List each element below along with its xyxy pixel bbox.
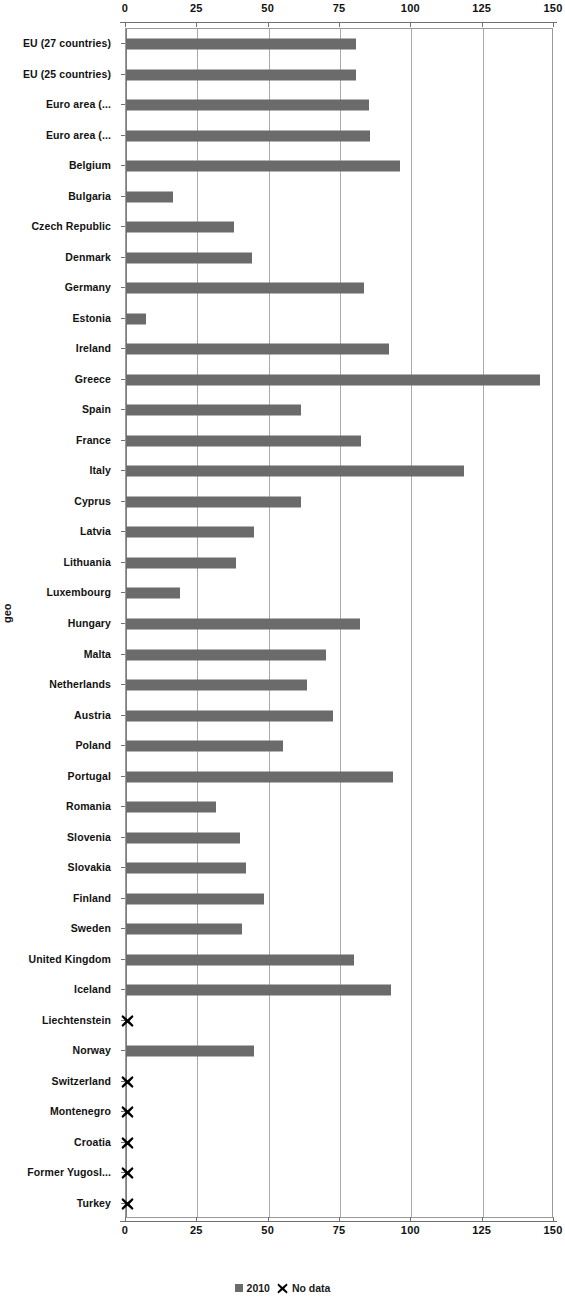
bar[interactable] [126, 710, 333, 721]
bar[interactable] [126, 649, 326, 660]
x-tick-mark [553, 1217, 554, 1221]
bar-row[interactable] [126, 29, 552, 60]
bar[interactable] [126, 191, 173, 202]
bar-row[interactable] [126, 365, 552, 396]
x-tick-mark [268, 23, 269, 27]
x-tick-label: 50 [261, 2, 274, 14]
bar-row[interactable] [126, 944, 552, 975]
bar[interactable] [126, 1046, 254, 1057]
bar[interactable] [126, 863, 246, 874]
bar-row[interactable] [126, 914, 552, 945]
bar-row[interactable] [126, 90, 552, 121]
bar[interactable] [126, 313, 146, 324]
bar[interactable] [126, 893, 264, 904]
bar-row[interactable] [126, 609, 552, 640]
bar[interactable] [126, 741, 283, 752]
bar[interactable] [126, 496, 301, 507]
bar-row[interactable] [126, 822, 552, 853]
bar-row[interactable] [126, 700, 552, 731]
y-category-label: Finland [73, 892, 111, 904]
bar-row[interactable] [126, 731, 552, 762]
bar[interactable] [126, 527, 254, 538]
y-category-label: Euro area (... [46, 98, 111, 110]
bar[interactable] [126, 588, 180, 599]
bar-row[interactable] [126, 1005, 552, 1036]
y-category-label: Romania [66, 800, 111, 812]
x-tick-label: 75 [333, 2, 346, 14]
bar-row[interactable] [126, 883, 552, 914]
bar[interactable] [126, 466, 464, 477]
bar-row[interactable] [126, 1127, 552, 1158]
bar[interactable] [126, 985, 391, 996]
bar[interactable] [126, 283, 364, 294]
bar-row[interactable] [126, 456, 552, 487]
bar-row[interactable] [126, 975, 552, 1006]
chart-legend: 2010 No data [0, 1282, 565, 1294]
x-tick-label: 100 [401, 1224, 420, 1236]
bar-row[interactable] [126, 670, 552, 701]
bar-row[interactable] [126, 60, 552, 91]
y-category-label: Norway [72, 1044, 111, 1056]
legend-swatch-icon [235, 1284, 243, 1292]
bar[interactable] [126, 924, 242, 935]
bar-row[interactable] [126, 1066, 552, 1097]
bar[interactable] [126, 954, 354, 965]
bar[interactable] [126, 405, 301, 416]
bar-row[interactable] [126, 853, 552, 884]
x-axis-top-rule [120, 22, 557, 23]
y-category-label: Hungary [68, 617, 111, 629]
bar[interactable] [126, 344, 389, 355]
legend-label-2010: 2010 [247, 1282, 270, 1294]
legend-entry-no-data: No data [277, 1282, 331, 1294]
bar[interactable] [126, 39, 356, 50]
no-data-cross-icon [121, 1106, 134, 1119]
y-category-label: Cyprus [74, 495, 111, 507]
x-tick-mark [125, 1217, 126, 1221]
bar-row[interactable] [126, 517, 552, 548]
bar[interactable] [126, 374, 540, 385]
bar[interactable] [126, 832, 240, 843]
y-category-label: Ireland [76, 342, 111, 354]
bar[interactable] [126, 161, 400, 172]
bar-row[interactable] [126, 212, 552, 243]
y-category-label: EU (25 countries) [23, 68, 111, 80]
bar-row[interactable] [126, 273, 552, 304]
bar-row[interactable] [126, 426, 552, 457]
bar-row[interactable] [126, 395, 552, 426]
bar-row[interactable] [126, 304, 552, 335]
bar[interactable] [126, 802, 216, 813]
bar-row[interactable] [126, 792, 552, 823]
y-category-label: Latvia [80, 525, 111, 537]
bar-row[interactable] [126, 151, 552, 182]
y-category-label: Turkey [77, 1197, 111, 1209]
y-category-label: Liechtenstein [42, 1014, 111, 1026]
bar-row[interactable] [126, 578, 552, 609]
bar-row[interactable] [126, 1188, 552, 1219]
bar-row[interactable] [126, 761, 552, 792]
bar[interactable] [126, 100, 369, 111]
x-tick-mark [268, 1217, 269, 1221]
bar-row[interactable] [126, 182, 552, 213]
bar-row[interactable] [126, 1158, 552, 1189]
y-axis-category-labels: EU (27 countries)EU (25 countries)Euro a… [0, 28, 118, 1218]
bar-row[interactable] [126, 121, 552, 152]
bar-row[interactable] [126, 548, 552, 579]
bar[interactable] [126, 435, 361, 446]
y-category-label: Slovakia [68, 861, 111, 873]
bar[interactable] [126, 680, 307, 691]
bar[interactable] [126, 557, 236, 568]
bar[interactable] [126, 771, 393, 782]
bar[interactable] [126, 222, 234, 233]
bar[interactable] [126, 252, 252, 263]
bar[interactable] [126, 130, 370, 141]
legend-label-no-data: No data [292, 1282, 331, 1294]
bar-row[interactable] [126, 1097, 552, 1128]
bar-row[interactable] [126, 487, 552, 518]
bar[interactable] [126, 618, 360, 629]
bar[interactable] [126, 69, 356, 80]
bar-row[interactable] [126, 639, 552, 670]
bar-row[interactable] [126, 243, 552, 274]
bar-row[interactable] [126, 334, 552, 365]
y-category-label: Switzerland [52, 1075, 111, 1087]
bar-row[interactable] [126, 1036, 552, 1067]
